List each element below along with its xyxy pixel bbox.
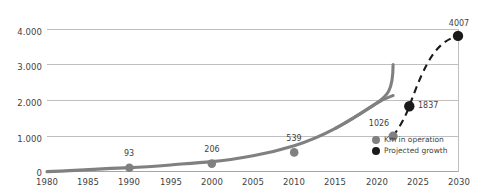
x-axis-tick-1980: 1980: [27, 178, 67, 187]
data-label-2030: 4007: [449, 20, 469, 28]
x-axis-tick-2000: 2000: [192, 178, 232, 187]
x-axis-tick-2030: 2030: [439, 178, 479, 187]
legend-marker-icon-km-in-operation: [372, 136, 380, 144]
x-axis-tick-2020: 2020: [357, 178, 397, 187]
data-point-2030: [453, 31, 463, 41]
legend-marker-icon-projected-growth: [372, 147, 380, 155]
x-axis-tick-2015: 2015: [315, 178, 355, 187]
cropped-header-artifact: [12, 0, 312, 6]
series-line-km-in-operation: [47, 65, 393, 172]
x-axis-tick-2025: 2025: [398, 178, 438, 187]
y-axis-tick-4000: 4.000: [2, 28, 42, 37]
data-point-1990: [125, 163, 134, 172]
x-axis-tick-2010: 2010: [274, 178, 314, 187]
data-label-1990: 93: [124, 150, 134, 158]
data-label-2018: 1026: [369, 120, 389, 128]
x-axis-tick-2005: 2005: [233, 178, 273, 187]
chart-legend: Km in operation Projected growth: [372, 136, 448, 155]
data-label-2010: 539: [286, 135, 301, 143]
y-axis-tick-3000: 3.000: [2, 63, 42, 72]
legend-item-km-in-operation: Km in operation: [372, 136, 448, 144]
y-axis-tick-1000: 1.000: [2, 135, 42, 144]
x-axis-tick-1990: 1990: [109, 178, 149, 187]
legend-label-projected-growth: Projected growth: [384, 147, 448, 155]
legend-item-projected-growth: Projected growth: [372, 147, 448, 155]
data-label-2020: 1837: [418, 102, 438, 110]
data-point-2020: [404, 101, 414, 111]
y-axis-tick-2000: 2.000: [2, 99, 42, 108]
series-line-projected-growth: [393, 36, 459, 136]
x-axis-tick-1995: 1995: [151, 178, 191, 187]
line-chart: 4.000 3.000 2.000 1.000 0 93 2: [0, 0, 484, 196]
data-label-2000: 206: [204, 146, 219, 154]
legend-label-km-in-operation: Km in operation: [384, 136, 444, 144]
data-point-2010: [290, 148, 299, 157]
x-axis-tick-1985: 1985: [68, 178, 108, 187]
data-point-2000: [208, 159, 217, 168]
